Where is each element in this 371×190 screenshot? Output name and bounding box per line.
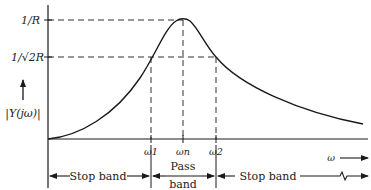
break-line-icon bbox=[300, 172, 368, 180]
peak-level-label: 1/R bbox=[21, 14, 40, 27]
pass-band-top-label: Pass bbox=[171, 160, 196, 173]
pass-band-bottom-label: band bbox=[169, 178, 197, 190]
reference-lines bbox=[48, 20, 216, 139]
resonance-diagram: 1/R 1/√2R |Y(jω)| ω1 ωn ω2 ω Stop band P… bbox=[0, 0, 371, 190]
y-axis-label: |Y(jω)| bbox=[5, 107, 41, 121]
admittance-curve bbox=[48, 19, 363, 139]
x-axis-label: ω bbox=[327, 152, 335, 163]
omega-n-label: ωn bbox=[176, 146, 190, 157]
half-power-level-label: 1/√2R bbox=[11, 51, 44, 64]
stop-band-left-label: Stop band bbox=[70, 170, 127, 183]
stop-band-right-label: Stop band bbox=[240, 170, 297, 183]
